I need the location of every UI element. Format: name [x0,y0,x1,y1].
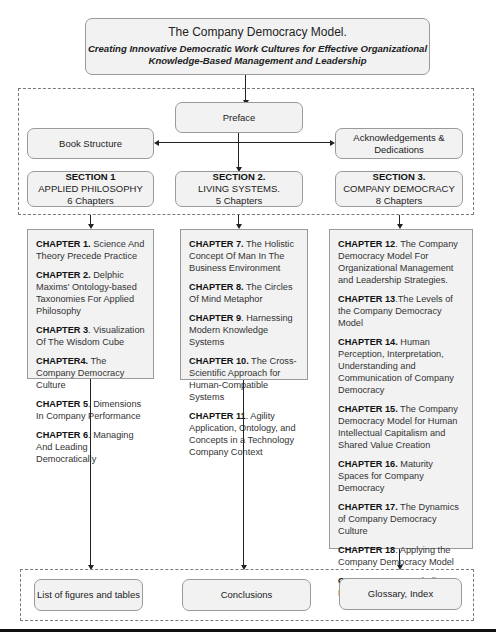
chapter-item: CHAPTER 16. Maturity Spaces for Company … [338,458,464,494]
section-2-chapter-list: CHAPTER 7. The Holistic Concept Of Man I… [180,229,308,380]
book-structure-box: Book Structure [27,128,154,159]
chapter-item: CHAPTER 9. Harnessing Modern Knowledge S… [189,312,299,348]
section-2-name: LIVING SYSTEMS. [198,183,280,195]
acknowledgements-box: Acknowledgements & Dedications [335,128,463,159]
acknowledgements-label-line1: Acknowledgements & [353,132,444,144]
book-structure-label: Book Structure [59,138,122,150]
chapter-item: CHAPTER 7. The Holistic Concept Of Man I… [189,238,299,274]
chapter-item: CHAPTER 3. Visualization Of The Wisdom C… [36,324,145,348]
diagram-title: The Company Democracy Model. [168,26,347,38]
arrowhead-right-icon [330,140,335,146]
preface-box: Preface [175,102,303,133]
chapter-item: CHAPTER 2. Delphic Maxims' Ontology-base… [36,269,145,317]
preface-label: Preface [223,112,256,124]
section-1-box: SECTION 1 APPLIED PHILOSOPHY 6 Chapters [27,171,154,207]
section-1-heading: SECTION 1 [65,171,115,183]
chapter-item: CHAPTER 13.The Levels of the Company Dem… [338,293,464,329]
connector-list-3-down [399,549,400,566]
section-1-name: APPLIED PHILOSOPHY [38,183,143,195]
chapter-item: CHAPTER 15. The Company Democracy Model … [338,403,464,451]
section-3-box: SECTION 3. COMPANY DEMOCRACY 8 Chapters [335,171,463,207]
section-2-box: SECTION 2. LIVING SYSTEMS. 5 Chapters [175,171,303,207]
section-3-heading: SECTION 3. [373,171,426,183]
section-3-chapter-list: CHAPTER 12. The Company Democracy Model … [329,229,473,549]
title-box: The Company Democracy Model. Creating In… [85,18,430,75]
list-of-figures-label: List of figures and tables [37,589,140,601]
glossary-index-label: Glossary, Index [368,588,433,600]
list-of-figures-box: List of figures and tables [34,579,143,611]
section-1-chapter-list: CHAPTER 1. Science And Theory Precede Pr… [27,229,154,379]
chapter-item: CHAPTER 8. The Circles Of Mind Metaphor [189,281,299,305]
arrowhead-left-icon [154,140,159,146]
acknowledgements-label-line2: Dedications [374,144,424,156]
connector-horizontal [158,142,331,143]
diagram-subtitle-line2: Knowledge-Based Management and Leadershi… [148,55,366,67]
connector-preface-down [238,133,239,168]
bottom-divider [0,629,496,632]
section-1-count: 6 Chapters [67,195,113,207]
connector-list-1-down [90,379,91,566]
conclusions-label: Conclusions [221,589,273,601]
section-2-heading: SECTION 2. [213,171,266,183]
diagram-subtitle-line1: Creating Innovative Democratic Work Cult… [88,43,427,55]
chapter-item: CHAPTER 14. Human Perception, Interpreta… [338,336,464,396]
chapter-item: CHAPTER 1. Science And Theory Precede Pr… [36,238,145,262]
section-2-count: 5 Chapters [216,195,262,207]
chapter-item: CHAPTER 17. The Dynamics of Company Demo… [338,501,464,537]
section-3-count: 8 Chapters [376,195,422,207]
chapter-item: CHAPTER 12. The Company Democracy Model … [338,238,464,286]
conclusions-box: Conclusions [182,579,311,611]
connector-list-2-down [243,380,244,566]
glossary-index-box: Glossary, Index [339,578,462,610]
section-3-name: COMPANY DEMOCRACY [343,183,455,195]
